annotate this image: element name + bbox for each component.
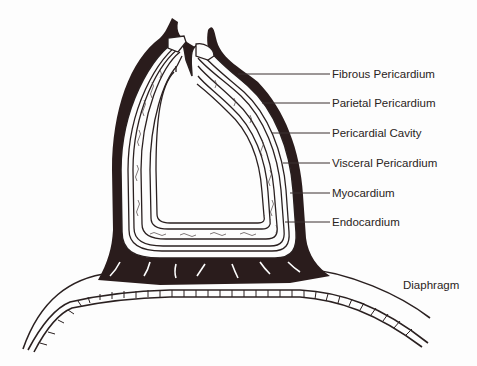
label-diaphragm: Diaphragm bbox=[403, 279, 459, 291]
label-pericardial-cavity: Pericardial Cavity bbox=[332, 127, 421, 139]
label-parietal-pericardium: Parietal Pericardium bbox=[332, 97, 436, 109]
label-endocardium: Endocardium bbox=[332, 216, 400, 228]
diagram-illustration bbox=[0, 0, 477, 366]
heart-wall-diagram: Fibrous Pericardium Parietal Pericardium… bbox=[0, 0, 477, 366]
label-visceral-pericardium: Visceral Pericardium bbox=[332, 157, 437, 169]
diaphragm-ticks bbox=[40, 290, 412, 345]
label-fibrous-pericardium: Fibrous Pericardium bbox=[332, 68, 435, 80]
label-myocardium: Myocardium bbox=[332, 187, 395, 199]
